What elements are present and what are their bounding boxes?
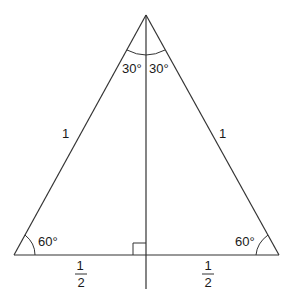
- bottom-right-angle-label: 60°: [235, 234, 255, 249]
- bottom-left-angle-label: 60°: [38, 234, 58, 249]
- left-side-label: 1: [62, 126, 69, 141]
- bottom-right-angle-arc: [256, 235, 268, 255]
- right-side: [146, 15, 279, 255]
- bottom-left-angle-arc: [25, 235, 35, 255]
- right-angle-marker: [133, 243, 146, 255]
- left-side: [14, 15, 146, 255]
- right-half-base-denominator: 2: [204, 275, 211, 290]
- triangle-diagram: 30° 30° 1 1 60° 60° 1 2 1 2: [0, 0, 291, 303]
- apex-right-angle-label: 30°: [149, 61, 169, 76]
- apex-left-angle-label: 30°: [122, 61, 142, 76]
- left-half-base-numerator: 1: [76, 258, 83, 273]
- right-half-base-numerator: 1: [204, 258, 211, 273]
- left-half-base-denominator: 2: [77, 275, 84, 290]
- right-side-label: 1: [219, 126, 226, 141]
